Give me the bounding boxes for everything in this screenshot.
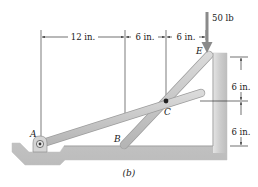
dim-label-v-bottom: 6 in. (231, 127, 250, 137)
point-label-a: A (29, 129, 37, 139)
load-label: 50 lb (212, 13, 234, 23)
load-arrow (202, 12, 213, 53)
dim-label-6in-1: 6 in. (135, 32, 154, 42)
right-wall (213, 53, 227, 153)
point-label-e: E (195, 46, 203, 56)
figure-caption: (b) (123, 168, 136, 178)
pin-c (164, 99, 169, 104)
point-label-b: B (113, 134, 121, 144)
dim-label-6in-2: 6 in. (176, 32, 195, 42)
dim-label-12in: 12 in. (71, 32, 95, 42)
mechanism-diagram: 12 in. 6 in. 6 in. 6 in. 6 in. 50 lb A B… (0, 0, 258, 187)
dim-label-v-top: 6 in. (231, 82, 250, 92)
point-label-c: C (164, 107, 171, 117)
